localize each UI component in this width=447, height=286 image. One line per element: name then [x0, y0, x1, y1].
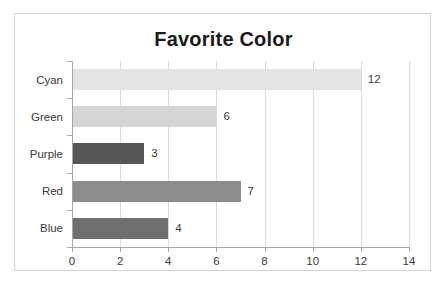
y-axis-tick [67, 61, 72, 62]
x-axis-label-8: 8 [245, 254, 285, 268]
x-axis-label-10: 10 [293, 254, 333, 268]
y-axis-tick [67, 135, 72, 136]
x-axis-tick [409, 247, 410, 252]
bar-row: 7 [72, 173, 409, 210]
bar-row: 6 [72, 98, 409, 135]
x-axis-label-12: 12 [341, 254, 381, 268]
x-axis-tick [313, 247, 314, 252]
y-axis-label-cyan: Cyan [15, 73, 63, 87]
y-axis-label-purple: Purple [15, 147, 63, 161]
gridline-x-14 [409, 61, 410, 247]
y-axis-tick [67, 98, 72, 99]
x-axis-label-14: 14 [389, 254, 429, 268]
bar-value-label: 7 [248, 182, 254, 201]
y-axis-tick [67, 210, 72, 211]
plot-area: 126374 [72, 61, 409, 247]
bar-red[interactable] [72, 181, 241, 202]
x-axis-label-0: 0 [52, 254, 92, 268]
bar-row: 4 [72, 210, 409, 247]
bars-layer: 126374 [72, 61, 409, 247]
y-axis-tick [67, 173, 72, 174]
x-axis-tick [361, 247, 362, 252]
chart-title: Favorite Color [15, 28, 432, 51]
bar-value-label: 4 [175, 219, 181, 238]
bar-green[interactable] [72, 106, 216, 127]
y-axis-label-blue: Blue [15, 221, 63, 235]
x-axis-tick [120, 247, 121, 252]
x-axis-tick [168, 247, 169, 252]
x-axis-label-6: 6 [196, 254, 236, 268]
bar-value-label: 3 [151, 144, 157, 163]
x-axis-tick [72, 247, 73, 252]
x-axis-line [72, 247, 410, 248]
bar-blue[interactable] [72, 218, 168, 239]
bar-value-label: 6 [223, 107, 229, 126]
x-axis-label-4: 4 [148, 254, 188, 268]
bar-row: 12 [72, 61, 409, 98]
x-axis-label-2: 2 [100, 254, 140, 268]
chart-frame: Favorite Color 126374 CyanGreenPurpleRed… [14, 13, 431, 271]
bar-purple[interactable] [72, 143, 144, 164]
y-axis-label-green: Green [15, 110, 63, 124]
x-axis-tick [216, 247, 217, 252]
bar-value-label: 12 [368, 70, 381, 89]
bar-row: 3 [72, 135, 409, 172]
bar-cyan[interactable] [72, 69, 361, 90]
y-axis-label-red: Red [15, 184, 63, 198]
y-axis-line [72, 61, 73, 247]
x-axis-tick [265, 247, 266, 252]
